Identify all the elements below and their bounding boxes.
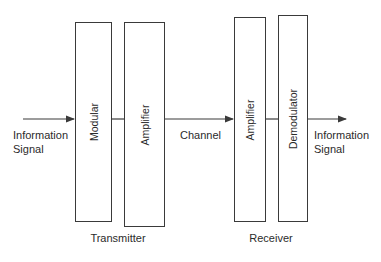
block-label: Modular — [88, 103, 100, 141]
demodulator-block: Demodulator — [278, 15, 308, 222]
tx-amplifier-block: Amplifier — [124, 22, 165, 227]
input-label: Information Signal — [13, 128, 68, 156]
rx-amplifier-block: Amplifier — [234, 17, 266, 222]
receiver-label: Receiver — [249, 232, 292, 244]
block-label: Amplifier — [244, 99, 256, 140]
transmitter-label: Transmitter — [90, 232, 145, 244]
channel-label: Channel — [180, 128, 221, 142]
block-label: Demodulator — [287, 88, 299, 148]
block-label: Amplifier — [139, 104, 151, 145]
modular-block: Modular — [75, 22, 112, 222]
output-label: Information Signal — [314, 128, 369, 156]
